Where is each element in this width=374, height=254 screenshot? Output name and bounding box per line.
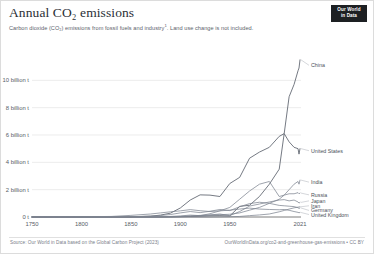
series-leader-line [301, 206, 309, 207]
series-label-china[interactable]: China [311, 62, 325, 68]
y-tick-label: 0 t [22, 214, 29, 220]
x-tick-label: 2021 [293, 221, 306, 227]
y-tick-label: 4 billion t [6, 159, 30, 165]
series-leader-line [301, 180, 309, 182]
x-tick-label: 1950 [223, 221, 237, 227]
y-tick-label: 2 billion t [6, 187, 30, 193]
series-line[interactable] [32, 207, 300, 217]
series-label-india[interactable]: India [311, 179, 323, 185]
series-lines [32, 60, 300, 217]
gridlines [32, 80, 301, 189]
source-url: OurWorldInData.org/co2-and-greenhouse-ga… [225, 240, 364, 245]
x-tick-label: 1750 [25, 221, 39, 227]
series-leader-line [301, 201, 309, 203]
series-leader-line [301, 208, 309, 210]
x-axis-tick-labels: 175018001850190019502021 [25, 221, 306, 227]
series-line[interactable] [32, 208, 300, 217]
y-axis-tick-labels: 0 t2 billion t4 billion t6 billion t8 bi… [2, 77, 29, 220]
series-line[interactable] [32, 60, 300, 217]
source-note: Source: Our World in Data based on the G… [10, 240, 159, 245]
series-line[interactable] [32, 134, 300, 217]
y-tick-label: 8 billion t [6, 105, 30, 111]
x-tick-label: 1900 [174, 221, 188, 227]
series-leader-line [301, 193, 309, 195]
series-line[interactable] [32, 181, 300, 217]
y-tick-label: 10 billion t [2, 77, 29, 83]
series-leader-line [301, 212, 309, 214]
line-chart-plot: 0 t2 billion t4 billion t6 billion t8 bi… [1, 1, 374, 254]
y-tick-label: 6 billion t [6, 132, 30, 138]
series-labels: ChinaUnited StatesIndiaRussiaJapanIranGe… [301, 60, 349, 218]
series-leader-line [301, 149, 309, 151]
x-tick-label: 1850 [124, 221, 138, 227]
chart-card: Annual CO₂ emissions Carbon dioxide (CO₂… [0, 0, 374, 254]
series-leader-line [301, 60, 309, 65]
x-tick-label: 1800 [75, 221, 89, 227]
series-label-united-kingdom[interactable]: United Kingdom [311, 212, 349, 218]
footer-divider [9, 237, 365, 238]
series-line[interactable] [32, 180, 300, 217]
series-label-united-states[interactable]: United States [311, 148, 343, 154]
